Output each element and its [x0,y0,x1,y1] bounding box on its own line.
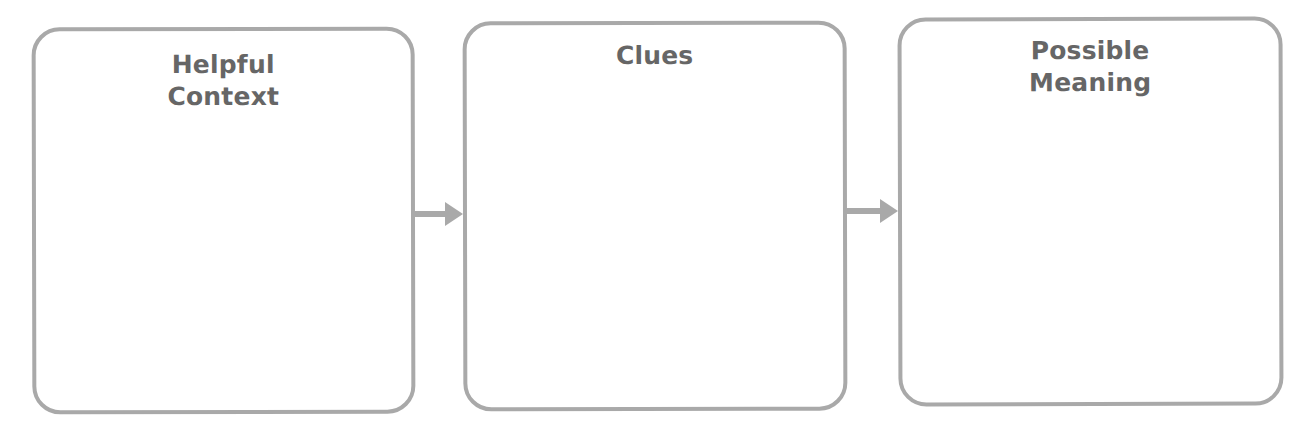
clues-box: Clues [463,21,848,412]
box-title: Clues [467,40,843,73]
box-title-line: Clues [467,40,843,73]
graphic-organizer: Helpful Context Clues Possible Meaning [0,0,1315,437]
box-title-line: Helpful [36,49,411,82]
possible-meaning-box: Possible Meaning [897,16,1283,406]
arrow-right-icon [414,201,464,227]
box-title-line: Meaning [902,67,1279,100]
box-title-line: Context [36,81,411,114]
arrow-right-icon [846,198,899,224]
box-title: Helpful Context [36,49,411,114]
helpful-context-writing-area[interactable] [50,121,398,397]
possible-meaning-writing-area[interactable] [916,111,1266,389]
helpful-context-box: Helpful Context [32,27,416,415]
box-title: Possible Meaning [902,35,1279,100]
box-title-line: Possible [902,35,1279,68]
clues-writing-area[interactable] [481,85,830,394]
